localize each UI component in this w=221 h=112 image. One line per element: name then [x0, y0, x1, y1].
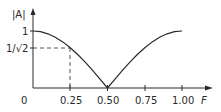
x-tick-label-025: 0.25 — [60, 95, 82, 106]
x-axis-label: F — [201, 95, 207, 106]
chart: |A| 1 1/√2 0 0.25 0.50 0.75 1.00 F — [0, 0, 221, 112]
origin-label: 0 — [21, 95, 27, 106]
x-axis-arrow-icon — [205, 86, 213, 91]
x-tick-label-100: 1.00 — [172, 95, 194, 106]
dashed-guides — [33, 48, 70, 88]
x-tick-label-075: 0.75 — [135, 95, 157, 106]
y-axis-label: |A| — [12, 9, 26, 21]
y-tick-label-inv-sqrt2: 1/√2 — [6, 43, 28, 54]
y-axis-arrow-icon — [31, 8, 36, 15]
axes — [30, 8, 213, 91]
y-tick-label-1: 1 — [22, 26, 28, 37]
data-line — [33, 31, 182, 88]
x-tick-label-050: 0.50 — [97, 95, 119, 106]
